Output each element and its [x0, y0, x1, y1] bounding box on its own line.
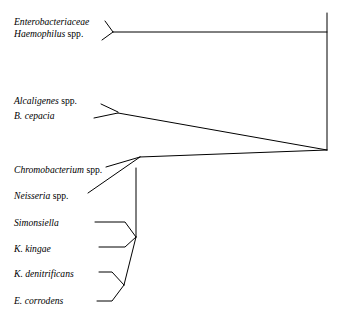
taxon-label-alcaligenes: Alcaligenes spp. — [14, 95, 77, 106]
taxon-genus: Enterobacteriaceae — [14, 16, 89, 27]
taxon-genus: Haemophilus — [14, 28, 65, 39]
branch-haemophilus — [102, 32, 113, 40]
taxon-label-haemophilus: Haemophilus spp. — [14, 28, 83, 39]
taxon-label-simonsiella: Simonsiella — [14, 217, 59, 228]
tree-branches — [88, 13, 327, 301]
branch-lower-stem — [140, 150, 327, 157]
branch-chromobacterium — [106, 157, 140, 167]
taxon-genus: K. kingae — [14, 243, 51, 254]
taxon-label-k-denitrificans: K. denitrificans — [14, 268, 74, 279]
taxon-genus: Chromobacterium — [14, 164, 84, 175]
taxon-genus: K. denitrificans — [14, 268, 74, 279]
taxon-genus: Neisseria — [14, 190, 50, 201]
taxon-genus: Alcaligenes — [14, 95, 59, 106]
branch-enterobacteriaceae — [105, 21, 113, 32]
branch-alcaligenes — [101, 104, 118, 112]
taxon-label-enterobacteriaceae: Enterobacteriaceae — [14, 16, 89, 27]
taxon-qualifier: spp. — [65, 28, 83, 39]
taxon-genus: E. corrodens — [14, 295, 63, 306]
taxon-label-k-kingae: K. kingae — [14, 243, 51, 254]
phylogenetic-tree-figure: Enterobacteriaceae Haemophilus spp. Alca… — [0, 0, 344, 319]
taxon-qualifier: spp. — [59, 95, 77, 106]
branch-k-denitrificans — [99, 272, 124, 285]
taxon-genus: B. cepacia — [14, 110, 55, 121]
branch-alcaligenes-stem — [118, 113, 327, 150]
taxon-genus: Simonsiella — [14, 217, 59, 228]
taxon-qualifier: spp. — [84, 164, 102, 175]
taxon-label-chromobacterium: Chromobacterium spp. — [14, 164, 102, 175]
branch-k-kingae — [99, 237, 136, 247]
taxon-label-e-corrodens: E. corrodens — [14, 295, 63, 306]
branch-simonsiella — [95, 222, 136, 237]
branch-e-corrodens — [97, 285, 124, 301]
taxon-label-b-cepacia: B. cepacia — [14, 110, 55, 121]
branch-neisseria — [88, 157, 140, 193]
taxon-label-neisseria: Neisseria spp. — [14, 190, 68, 201]
branch-lower-clade-stem — [124, 237, 136, 285]
branch-b-cepacia — [94, 113, 118, 118]
taxon-qualifier: spp. — [50, 190, 68, 201]
